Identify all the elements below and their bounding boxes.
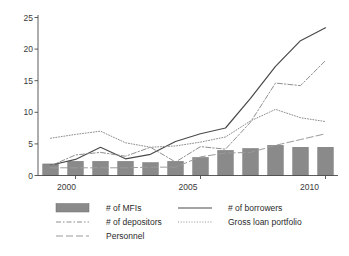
y-tick-label: 20 bbox=[24, 44, 34, 54]
bar bbox=[168, 161, 184, 175]
chart-container: 25 20 15 10 5 0 bbox=[0, 0, 349, 256]
y-tick-label: 5 bbox=[28, 139, 33, 149]
bar bbox=[143, 163, 159, 176]
plot-area bbox=[43, 28, 334, 176]
x-tick-label: 2010 bbox=[300, 182, 319, 192]
y-tick-label: 10 bbox=[24, 107, 34, 117]
x-axis-ticks bbox=[76, 176, 326, 180]
x-axis-tick-labels: 2000 2005 2010 bbox=[57, 182, 319, 192]
x-tick-label: 2005 bbox=[179, 182, 198, 192]
y-tick-label: 25 bbox=[24, 13, 34, 23]
line-series-depositors bbox=[51, 61, 326, 166]
y-tick-label: 15 bbox=[24, 76, 34, 86]
y-tick-label: 0 bbox=[28, 171, 33, 181]
line-series-borrowers bbox=[51, 28, 326, 165]
bar bbox=[118, 161, 134, 175]
legend-label-mfis: # of MFIs bbox=[106, 203, 141, 213]
legend-label-borrowers: # of borrowers bbox=[228, 203, 282, 213]
chart-svg: 25 20 15 10 5 0 bbox=[0, 0, 349, 256]
bar bbox=[268, 145, 284, 175]
bar-series-mfis bbox=[43, 145, 334, 175]
legend-label-depositors: # of depositors bbox=[106, 217, 162, 227]
chart-legend: # of MFIs # of borrowers # of depositors… bbox=[56, 203, 302, 241]
bar bbox=[293, 147, 309, 175]
line-series-gross-loan-portfolio bbox=[51, 109, 326, 147]
line-series-personnel bbox=[51, 134, 326, 168]
bar bbox=[193, 158, 209, 176]
y-axis-ticks bbox=[35, 18, 39, 176]
bar-swatch bbox=[56, 204, 89, 213]
bar bbox=[93, 161, 109, 175]
legend-label-personnel: Personnel bbox=[106, 231, 144, 241]
legend-label-gross-loan-portfolio: Gross loan portfolio bbox=[228, 217, 302, 227]
y-axis-tick-labels: 25 20 15 10 5 0 bbox=[24, 13, 34, 181]
bar bbox=[318, 147, 334, 175]
bar bbox=[68, 161, 84, 175]
x-tick-label: 2000 bbox=[57, 182, 76, 192]
